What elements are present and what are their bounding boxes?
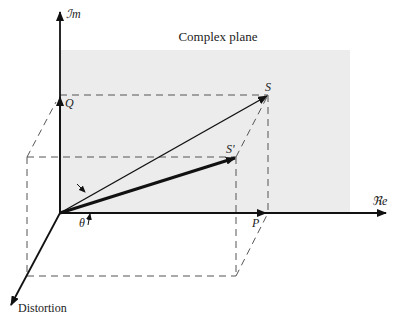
plane-title: Complex plane: [178, 29, 257, 44]
distortion-axis: [11, 213, 60, 305]
point-p-label: P: [251, 216, 260, 230]
distortion-axis-label: Distortion: [18, 301, 67, 315]
real-axis-label: ℜe: [372, 194, 388, 208]
point-s-label: S: [265, 80, 271, 94]
theta-arrow: [88, 214, 90, 225]
imaginary-axis-label: ℐm: [66, 7, 81, 21]
complex-plane-diagram: Complex plane ℐm ℜe Distortion S S' Q P …: [0, 0, 398, 319]
point-q-label: Q: [65, 96, 74, 110]
theta-label: θ: [79, 216, 85, 230]
point-s-prime-label: S': [226, 142, 235, 156]
